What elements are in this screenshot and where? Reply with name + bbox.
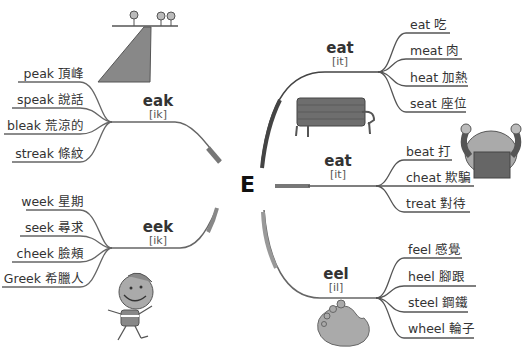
word-greek: Greek 希臘人 [4,272,84,286]
word-steel: steel 鋼鐵 [408,296,468,310]
child-icon [108,273,153,340]
hub-eat-top-pattern: eat [320,42,360,55]
center-node: E [240,172,255,197]
word-week: week 星期 [21,195,84,209]
word-streak: streak 條紋 [15,147,84,161]
word-peak: peak 頂峰 [24,67,85,81]
hub-eek-pattern: eek [138,221,178,234]
word-cheat: cheat 欺騙 [406,171,471,185]
hub-eek: eek [ik] [138,221,178,247]
hub-eel: eel [il] [316,268,356,294]
word-feel: feel 感覺 [408,243,461,257]
word-cheek: cheek 臉頰 [17,247,84,261]
foot-icon [318,300,370,346]
word-eat: eat 吃 [410,18,447,32]
word-meat: meat 肉 [410,44,459,58]
hub-eat-mid: eat [it] [318,155,358,181]
hub-eel-pattern: eel [316,268,356,281]
hub-eel-phonetic: [il] [316,281,356,294]
word-beat: beat 打 [406,145,451,159]
word-seat: seat 座位 [410,97,467,111]
word-speak: speak 說話 [17,93,84,107]
word-treat: treat 對待 [406,197,466,211]
hub-eat-mid-pattern: eat [318,155,358,168]
hub-eat-top: eat [it] [320,42,360,68]
peak-cliff-icon [98,11,178,82]
word-seek: seek 尋求 [25,221,84,235]
bench-icon [296,98,374,137]
hub-eak: eak [ik] [138,95,178,121]
word-heel: heel 腳跟 [408,270,465,284]
hub-eak-pattern: eak [138,95,178,108]
word-wheel: wheel 輪子 [408,322,475,336]
word-heat: heat 加熱 [410,71,468,85]
word-bleak: bleak 荒涼的 [7,119,84,133]
